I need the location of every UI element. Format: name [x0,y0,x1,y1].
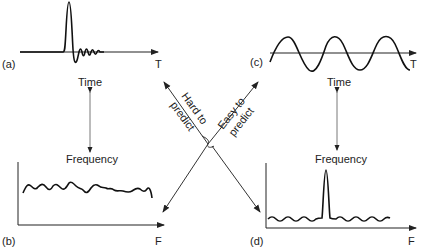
panel-c-axis-label: T [410,58,417,70]
arrow-to-panel-d [212,146,260,212]
predictability-cross: Hard to predict Easy to predict [163,82,260,212]
left-frequency-label: Frequency [66,153,118,165]
panel-a: (a) T [2,2,162,70]
panel-b: (b) F [2,162,164,247]
right-frequency-label: Frequency [315,153,367,165]
panel-c-tag: (c) [250,56,263,68]
left-time-label: Time [78,76,102,88]
panel-a-axis-label: T [155,58,162,70]
narrow-peak-spectrum-curve [268,170,390,221]
diagram-svg: (a) T Time Frequency (b) F (c) T Time Fr… [0,0,422,249]
sine-waveform [270,37,410,72]
panel-b-axis-label: F [155,235,162,247]
diagram-canvas: (a) T Time Frequency (b) F (c) T Time Fr… [0,0,422,249]
panel-d-tag: (d) [250,235,263,247]
right-time-frequency-link: Time Frequency [315,76,367,165]
panel-c: (c) T [250,37,417,72]
right-time-label: Time [327,76,351,88]
arrow-to-panel-b [163,144,208,212]
panel-b-tag: (b) [2,235,15,247]
transient-waveform [20,2,104,62]
panel-d: (d) F [250,163,416,247]
panel-a-tag: (a) [2,58,15,70]
left-time-frequency-link: Time Frequency [66,76,118,165]
panel-d-axis-label: F [408,235,415,247]
broadband-spectrum-curve [23,182,152,198]
